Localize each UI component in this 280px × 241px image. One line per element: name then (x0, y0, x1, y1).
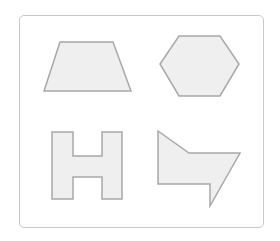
hexagon-shape (160, 36, 239, 96)
h-letter-shape (52, 132, 122, 199)
arrow-pentagon-shape (158, 131, 240, 206)
trapezoid-shape (44, 42, 131, 91)
shapes-canvas (0, 0, 280, 241)
